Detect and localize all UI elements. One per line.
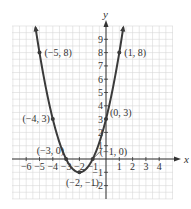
y-tick-label: 8 [98, 47, 103, 58]
x-tick-label: −5 [34, 161, 45, 172]
y-tick-label: 6 [98, 74, 103, 85]
x-axis-label: x [183, 153, 189, 165]
x-tick-label: −4 [47, 161, 58, 172]
y-tick-label: −1 [92, 167, 103, 178]
y-tick-label: 9 [98, 34, 103, 45]
point-label: (0, 3) [110, 107, 132, 119]
x-tick-label: 2 [130, 161, 135, 172]
data-point [104, 117, 108, 121]
data-point [51, 117, 55, 121]
point-label: (−2, −1) [66, 177, 99, 189]
y-tick-label: 5 [98, 87, 103, 98]
y-tick-label: 4 [98, 100, 103, 111]
point-label: (−1, 0) [100, 146, 127, 158]
y-axis-label: y [102, 8, 108, 20]
x-tick-label: 1 [117, 161, 122, 172]
x-tick-label: −6 [21, 161, 32, 172]
parabola-chart: −6−5−4−3−2−11234−2−1123456789 (−5, 8)(−4… [0, 0, 191, 209]
data-point [77, 170, 81, 174]
y-tick-label: 7 [98, 60, 103, 71]
data-point [117, 51, 121, 55]
point-label: (1, 8) [124, 47, 146, 59]
point-label: (−5, 8) [45, 47, 72, 59]
x-tick-label: 4 [157, 161, 162, 172]
point-label: (−3, 0) [37, 145, 64, 157]
point-label: (−4, 3) [22, 113, 49, 125]
x-tick-label: 3 [143, 161, 148, 172]
y-tick-label: 3 [98, 114, 103, 125]
data-point [64, 157, 68, 161]
data-point [38, 51, 42, 55]
